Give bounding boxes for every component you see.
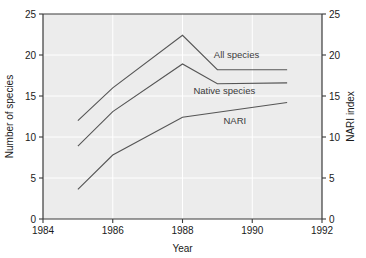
secondary-y-tick-label: 25 <box>329 9 341 20</box>
x-tick-label: 1988 <box>171 225 194 236</box>
y-tick-label: 5 <box>30 173 36 184</box>
secondary-y-axis-title: NARI index <box>345 91 356 142</box>
y-tick-label: 25 <box>25 9 37 20</box>
secondary-y-tick-label: 10 <box>329 132 341 143</box>
series-annotation-native-species: Native species <box>193 85 255 96</box>
series-annotation-nari: NARI <box>223 115 246 126</box>
secondary-y-tick-label: 5 <box>329 173 335 184</box>
y-tick-label: 15 <box>25 91 37 102</box>
x-tick-label: 1984 <box>32 225 55 236</box>
line-chart: 0510152025051015202519841986198819901992… <box>0 0 366 258</box>
x-axis-title: Year <box>172 243 193 254</box>
x-tick-label: 1992 <box>311 225 334 236</box>
y-tick-label: 10 <box>25 132 37 143</box>
y-axis-title: Number of species <box>4 75 15 158</box>
secondary-y-tick-label: 0 <box>329 214 335 225</box>
x-tick-label: 1986 <box>102 225 125 236</box>
secondary-y-tick-label: 20 <box>329 50 341 61</box>
y-tick-label: 20 <box>25 50 37 61</box>
y-tick-label: 0 <box>30 214 36 225</box>
series-annotation-all-species: All species <box>214 49 260 60</box>
secondary-y-tick-label: 15 <box>329 91 341 102</box>
chart-container: 0510152025051015202519841986198819901992… <box>0 0 366 258</box>
x-tick-label: 1990 <box>241 225 264 236</box>
